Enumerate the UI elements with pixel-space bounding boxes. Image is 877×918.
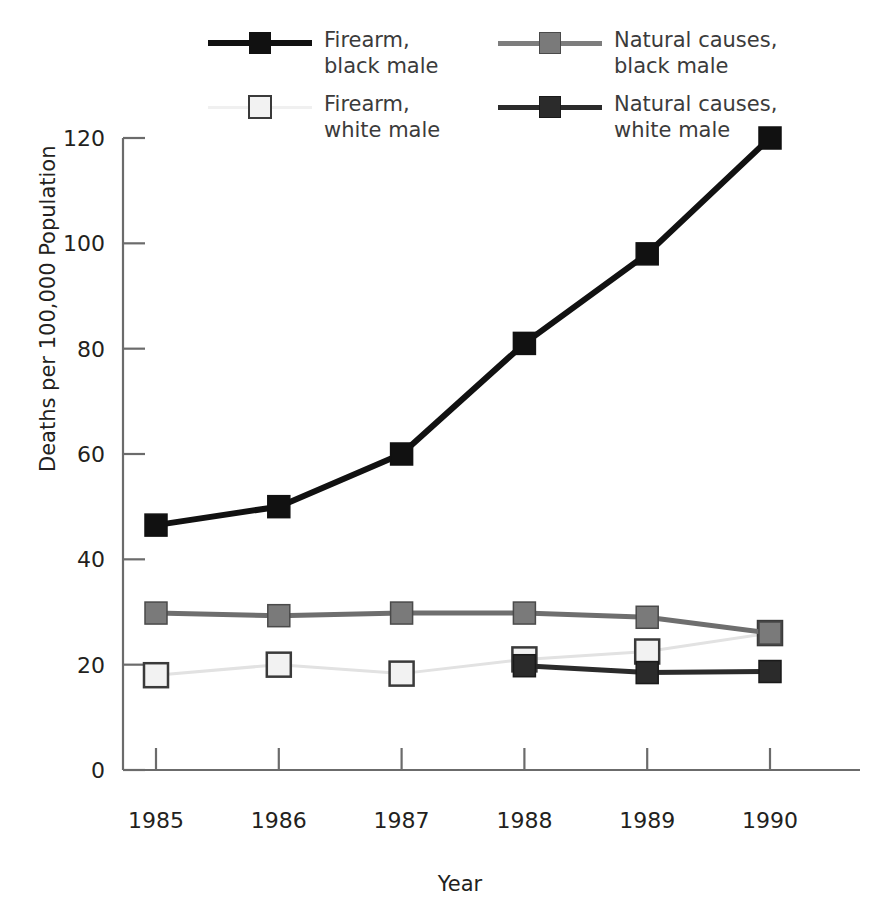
series-0 xyxy=(145,127,781,536)
series-marker xyxy=(759,661,781,683)
series-marker xyxy=(513,332,535,354)
series-marker xyxy=(144,663,168,687)
series-2 xyxy=(144,621,782,687)
series-marker xyxy=(145,514,167,536)
series-marker xyxy=(390,662,414,686)
y-tick-label: 20 xyxy=(35,652,105,677)
series-marker xyxy=(635,640,659,664)
x-axis-title: Year xyxy=(0,872,877,896)
series-line xyxy=(156,613,770,633)
series-marker xyxy=(391,602,413,624)
chart-figure: Firearm, black male Natural causes, blac… xyxy=(0,0,877,918)
series-marker xyxy=(267,653,291,677)
series-marker xyxy=(513,602,535,624)
series-1 xyxy=(145,602,781,644)
series-marker xyxy=(636,662,658,684)
chart-plot-area xyxy=(0,0,877,918)
axis-group xyxy=(123,138,860,770)
series-line xyxy=(156,633,770,675)
series-line xyxy=(156,138,770,525)
plot-svg xyxy=(0,0,877,918)
x-tick-label: 1990 xyxy=(715,808,825,833)
series-marker xyxy=(268,496,290,518)
series-marker xyxy=(759,127,781,149)
series-marker xyxy=(268,605,290,627)
x-tick-label: 1986 xyxy=(224,808,334,833)
y-tick-label: 0 xyxy=(35,758,105,783)
x-tick-label: 1989 xyxy=(592,808,702,833)
x-tick-label: 1988 xyxy=(469,808,579,833)
x-tick-label: 1987 xyxy=(347,808,457,833)
x-tick-label: 1985 xyxy=(101,808,211,833)
series-marker xyxy=(636,243,658,265)
series-marker xyxy=(636,606,658,628)
y-tick-label: 40 xyxy=(35,547,105,572)
series-marker xyxy=(513,655,535,677)
series-marker xyxy=(145,602,167,624)
y-axis-title: Deaths per 100,000 Population xyxy=(36,152,60,472)
series-marker xyxy=(759,622,781,644)
series-marker xyxy=(391,443,413,465)
